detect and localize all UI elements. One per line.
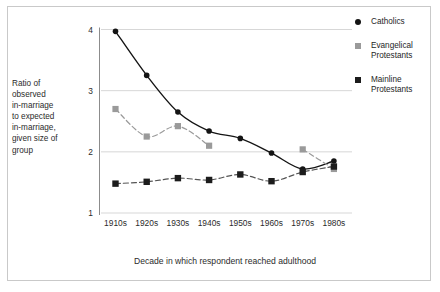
x-tick-label: 1940s [198,218,221,228]
data-point [331,163,337,169]
x-tick-labels: 1910s1920s1930s1940s1950s1960s1970s1980s [104,218,345,228]
data-point [144,179,150,185]
series-lines [116,31,334,183]
y-tick-label: 4 [88,25,93,35]
x-tick-label: 1980s [322,218,345,228]
data-point [238,136,244,142]
data-point [112,106,118,112]
data-point [144,73,150,79]
legend-label: Mainline Protestants [371,75,435,96]
legend-marker-square-icon [355,43,361,49]
legend-marker-circle-icon [355,19,361,25]
data-point [112,180,118,186]
data-point [300,146,306,152]
chart-legend: Catholics Evangelical Protestants Mainli… [355,17,435,109]
x-tick-label: 1930s [166,218,189,228]
legend-item-evangelical-protestants: Evangelical Protestants [355,41,435,62]
data-point [300,169,306,175]
data-point [268,178,274,184]
series-line [116,109,210,146]
gridlines [101,30,352,214]
x-tick-label: 1910s [104,218,127,228]
y-tick-label: 2 [88,147,93,157]
legend-item-catholics: Catholics [355,17,435,28]
legend-label: Evangelical Protestants [371,41,435,62]
y-tick-label: 1 [88,208,93,218]
data-point [175,175,181,181]
data-point [331,158,337,164]
y-tick-label: 3 [88,86,93,96]
data-point [206,128,212,134]
chart-figure: Ratio of observed in-marriage to expecte… [0,0,440,292]
x-tick-label: 1920s [135,218,158,228]
x-tick-label: 1970s [291,218,314,228]
y-tick-labels: 4321 [88,25,93,219]
legend-item-mainline-protestants: Mainline Protestants [355,75,435,96]
data-point [269,150,275,156]
legend-label: Catholics [371,17,435,28]
data-point [175,109,181,115]
data-point [206,143,212,149]
series-markers [112,29,337,187]
data-point [144,133,150,139]
x-axis-title: Decade in which respondent reached adult… [90,256,360,266]
data-point [206,177,212,183]
x-tick-label: 1950s [229,218,252,228]
legend-marker-square-icon [355,77,361,83]
data-point [113,29,119,35]
data-point [237,171,243,177]
data-point [175,123,181,129]
x-tick-label: 1960s [260,218,283,228]
